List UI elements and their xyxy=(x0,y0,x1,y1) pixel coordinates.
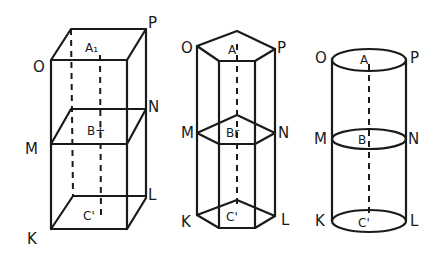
rectangular-prism: O P N M L K A₁ B+ C' xyxy=(25,14,159,248)
label-N: N xyxy=(148,98,159,116)
label-K: K xyxy=(315,212,326,230)
label-O: O xyxy=(181,39,193,57)
label-K: K xyxy=(181,213,192,231)
label-P: P xyxy=(410,49,419,67)
label-P: P xyxy=(277,39,286,57)
label-top-center: A xyxy=(360,53,369,67)
label-top-center: A₁ xyxy=(85,41,98,55)
diagram-canvas: O P N M L K A₁ B+ C' O P N M L K A Br C' xyxy=(0,0,448,254)
right-back-edge xyxy=(127,29,146,229)
label-bottom-center: C' xyxy=(358,216,370,230)
label-top-center: A xyxy=(228,43,237,57)
label-L: L xyxy=(148,186,157,204)
label-middle-center: B xyxy=(358,133,366,147)
top-back-edges xyxy=(51,29,146,60)
label-N: N xyxy=(408,130,419,148)
hidden-edge xyxy=(71,29,73,196)
label-middle-center: Br xyxy=(226,126,239,140)
label-middle-center: B+ xyxy=(87,124,105,138)
label-P: P xyxy=(148,14,157,32)
label-bottom-center: C' xyxy=(226,210,238,224)
label-K: K xyxy=(27,230,38,248)
label-bottom-center: C' xyxy=(83,209,95,223)
label-L: L xyxy=(410,212,419,230)
label-L: L xyxy=(281,211,290,229)
label-M: M xyxy=(314,130,327,148)
label-M: M xyxy=(25,140,38,158)
bottom-back-edges xyxy=(51,196,146,229)
label-N: N xyxy=(278,124,289,142)
label-M: M xyxy=(181,124,194,142)
hexagonal-prism: O P N M L K A Br C' xyxy=(181,31,290,231)
label-O: O xyxy=(33,58,45,76)
label-O: O xyxy=(315,49,327,67)
cylinder: O P N M L K A B C' xyxy=(314,49,419,232)
